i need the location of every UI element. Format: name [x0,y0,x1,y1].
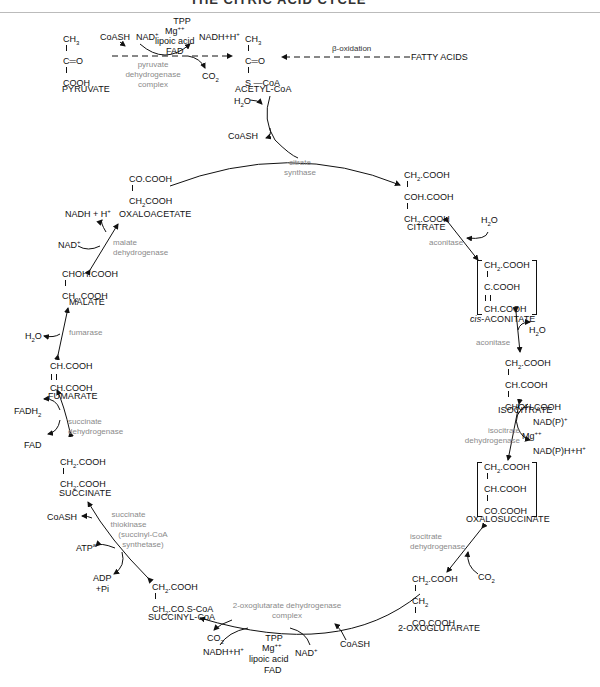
citrate-structure: CH2.COOH COH.COOH CH2.COOH [404,170,454,225]
mdh-label: malate dehydrogenase [113,238,163,258]
fumarase-label: fumarase [69,328,102,338]
cis-aconitate-label: cis-ACONITATE [470,314,535,324]
thiokinase-alt-label: (succinyl-CoA synthetase) [113,530,173,550]
cis-aconitate-structure: CH2.COOH C.COOH CH.COOH [478,260,536,315]
icdh-nadp: NAD(P)+ [533,417,568,428]
pyruvate-structure: CH3 C═O COOH [63,34,90,89]
pdh-nadh: NADH+H+ [199,32,240,43]
mdh-nadh: NADH + H+ [65,209,111,220]
citrate-synthase-label: citrate synthase [280,158,320,178]
citrate-synthase-coash: CoASH [228,131,258,142]
malate-label: MALATE [69,297,105,307]
ogdh-cofactor-lipoic: lipoic acid [249,654,289,665]
thiokinase-atp: ATPa [76,543,96,554]
sdh-fad: FAD [24,440,42,451]
fumarate-structure: CH.COOH CH.COOH [50,361,93,394]
icdh2-co2: CO2 [478,572,495,583]
ogdh-nad: NAD+ [295,648,318,659]
aconitase2-label: aconitase [476,338,510,348]
acetyl-h2o: H2O [234,96,251,107]
pdh-co2: CO2 [202,71,219,82]
beta-oxidation-label: β-oxidation [332,44,371,54]
aconitase1-h2o: H2O [481,215,498,226]
icdh1-label: isocitrate dehydrogenase [460,426,520,446]
ogdh-cofactor-fad: FAD [264,665,282,676]
icdh-nadph: NAD(P)H+H+ [533,446,586,457]
succinate-label: SUCCINATE [59,488,111,498]
oxalosuccinate-label: OXALOSUCCINATE [466,514,550,524]
oxaloacetate-label: OXALOACETATE [119,209,191,219]
succinyl-coa-structure: CH2.COOH CH2.CO.S-CoA [152,582,213,615]
acetyl-coa-structure: CH3 C═O S —CoA [245,34,280,89]
sdh-fadh2: FADH2 [14,406,41,417]
succinate-structure: CH2.COOH CH2.COOH [60,457,106,490]
fatty-acids-label: FATTY ACIDS [411,52,468,63]
oxalosuccinate-structure: CH2.COOH CH.COOH CO.COOH [478,462,536,517]
aconitase2-h2o: H2O [529,325,546,336]
aconitase1-label: aconitase [429,238,463,248]
succinyl-coa-label: SUCCINYL-CoA [148,612,215,622]
isocitrate-label: ISOCITRATE [498,405,552,415]
oxoglutarate-structure: CH2.COOH CH2 CO.COOH [412,574,458,629]
ogdh-label: 2-oxoglutarate dehydrogenase complex [232,601,342,621]
oxoglutarate-label: 2-OXOGLUTARATE [398,623,480,633]
thiokinase-adp: ADP+Pi [93,573,112,595]
acetyl-coa-label: ACETYL-CoA [235,84,292,94]
fumarate-label: FUMARATE [48,391,98,401]
ogdh-co2: CO2 [207,633,224,644]
thiokinase-label: succinate thiokinase [106,510,151,530]
pdh-coash: CoASH [100,32,130,43]
fumarase-h2o: H2O [25,331,42,342]
oxaloacetate-structure: CO.COOH CH2COOH [129,174,172,207]
sdh-label: succinate dehydrogenase [68,417,118,437]
pdh-cofactor-fad: FAD [166,46,184,57]
citrate-label: CITRATE [407,222,446,232]
ogdh-cofactor-mg: Mg++ [262,643,282,654]
icdh-mg: Mg++ [522,431,542,442]
pyruvate-label: PYRUVATE [62,84,110,94]
pdh-enzyme-label: pyruvate dehydrogenase complex [113,60,193,90]
ogdh-nadh: NADH+H+ [203,647,244,658]
icdh2-label: isocitrate dehydrogenase [410,532,470,552]
ogdh-coash: CoASH [340,639,370,650]
mdh-nad: NAD+ [58,240,81,251]
thiokinase-coash: CoASH [47,512,77,523]
